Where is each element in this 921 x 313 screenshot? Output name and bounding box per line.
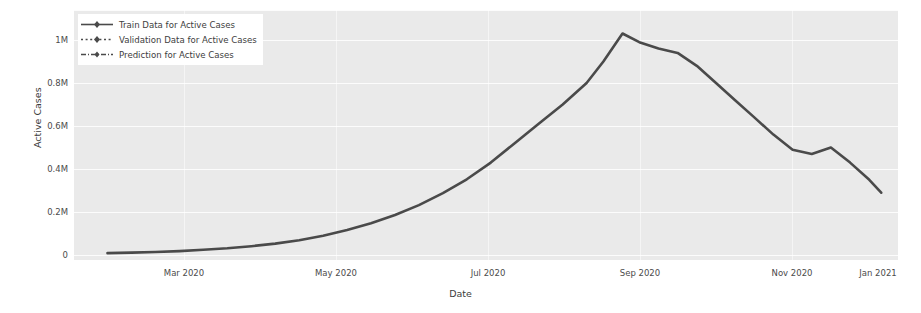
y-axis-label: Active Cases bbox=[22, 80, 33, 96]
y-axis-label-text: Active Cases bbox=[32, 132, 43, 148]
y-tick-label: 0.8M bbox=[47, 78, 68, 88]
y-tick-label: 0 bbox=[63, 250, 68, 260]
y-tick-label: 1M bbox=[55, 35, 68, 45]
x-tick-label: Jul 2020 bbox=[471, 268, 506, 278]
legend-entry-train[interactable]: Train Data for Active Cases bbox=[80, 17, 257, 32]
chart-legend: Train Data for Active Cases Validation D… bbox=[78, 14, 263, 65]
y-tick-label: 0.2M bbox=[47, 207, 68, 217]
legend-marker-dashdot-icon bbox=[80, 49, 114, 60]
y-tick-label: 0.4M bbox=[47, 164, 68, 174]
chart-figure: 1M 0.8M 0.6M 0.4M 0.2M 0 Active Cases Ma… bbox=[0, 0, 921, 313]
legend-entry-prediction[interactable]: Prediction for Active Cases bbox=[80, 47, 257, 62]
x-tick-label: Sep 2020 bbox=[620, 268, 660, 278]
y-tick-label: 0.6M bbox=[47, 121, 68, 131]
legend-label: Validation Data for Active Cases bbox=[119, 35, 257, 45]
x-tick-label: Jan 2021 bbox=[859, 268, 896, 278]
y-axis-ticks: 1M 0.8M 0.6M 0.4M 0.2M 0 bbox=[0, 0, 68, 313]
legend-marker-solid-icon bbox=[80, 19, 114, 30]
x-tick-label: Nov 2020 bbox=[772, 268, 813, 278]
x-axis-label: Date bbox=[0, 288, 921, 299]
legend-entry-validation[interactable]: Validation Data for Active Cases bbox=[80, 32, 257, 47]
x-tick-label: May 2020 bbox=[315, 268, 357, 278]
legend-label: Prediction for Active Cases bbox=[119, 50, 234, 60]
legend-label: Train Data for Active Cases bbox=[119, 20, 235, 30]
x-tick-label: Mar 2020 bbox=[164, 268, 204, 278]
legend-marker-dotted-icon bbox=[80, 34, 114, 45]
